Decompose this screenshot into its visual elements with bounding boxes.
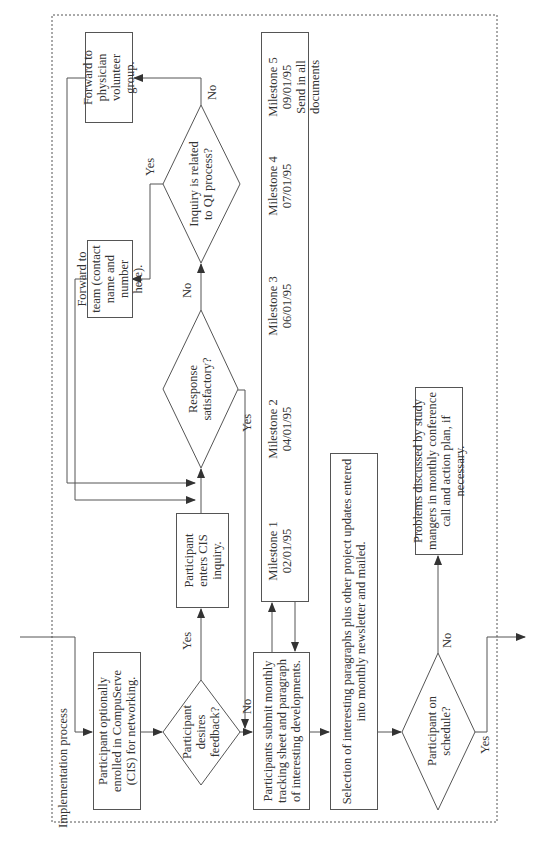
milestone-1-date: 02/01/95 — [280, 511, 294, 591]
milestone-3-date: 06/01/95 — [280, 266, 294, 346]
edge-label-feedback-no: No — [240, 699, 254, 714]
milestone-2: Milestone 2 04/01/95 — [266, 389, 294, 469]
milestone-3: Milestone 3 06/01/95 — [266, 266, 294, 346]
milestone-4-date: 07/01/95 — [280, 146, 294, 226]
flowchart-diagram: Implementation process Participant optio… — [0, 0, 540, 846]
milestone-1-name: Milestone 1 — [266, 511, 280, 591]
box-enroll-cis: Participant optionally enrolled in Compu… — [93, 652, 141, 810]
edge-label-inquiry-no: No — [205, 85, 219, 100]
milestone-1: Milestone 1 02/01/95 — [266, 511, 294, 591]
box-forward-team: Forward to team (contact name and number… — [87, 240, 133, 318]
milestone-5-name: Milestone 5 — [266, 33, 280, 141]
edge-label-schedule-yes: Yes — [478, 736, 492, 754]
edge-label-schedule-no: No — [440, 633, 454, 648]
milestone-2-date: 04/01/95 — [280, 389, 294, 469]
milestone-5: Milestone 5 09/01/95 Send in all documen… — [266, 33, 322, 141]
edge-label-feedback-yes: Yes — [180, 632, 194, 650]
box-forward-physician: Forward to physician volunteer group. — [85, 32, 133, 123]
milestones-bar: Milestone 1 02/01/95 Milestone 2 04/01/9… — [261, 32, 309, 602]
edge-label-inquiry-yes: Yes — [143, 158, 157, 176]
box-submit-monthly: Participants submit monthly tracking she… — [253, 652, 310, 810]
milestone-2-name: Milestone 2 — [266, 389, 280, 469]
milestone-5-note: Send in all documents — [294, 33, 322, 141]
label-inquiry-related: Inquiry is related to QI process? — [176, 137, 226, 231]
box-problems-discussed: Problems discussed by study mangers in m… — [415, 387, 463, 555]
label-response-satisfactory: Response satisfactory? — [180, 352, 220, 426]
label-desires-feedback: Participant desires feedback? — [176, 702, 226, 762]
milestone-4-name: Milestone 4 — [266, 146, 280, 226]
edge-label-response-yes: Yes — [240, 414, 254, 432]
milestone-4: Milestone 4 07/01/95 — [266, 146, 294, 226]
milestone-5-date: 09/01/95 — [280, 33, 294, 141]
box-selection-newsletter: Selection of interesting paragraphs plus… — [330, 453, 378, 810]
box-enters-inquiry: Participant enters CIS inquiry. — [176, 513, 229, 608]
label-on-schedule: Participant on schedule? — [414, 696, 464, 766]
frame-title: Implementation process — [56, 708, 70, 828]
milestone-3-name: Milestone 3 — [266, 266, 280, 346]
edge-label-response-no: No — [180, 283, 194, 298]
